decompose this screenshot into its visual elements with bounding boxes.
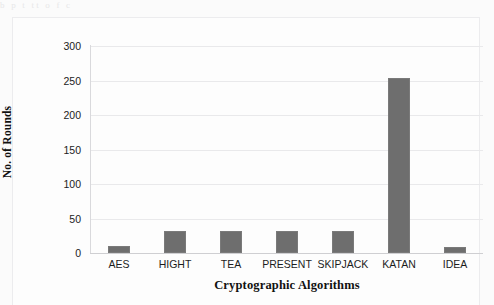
chart-frame: No. of Rounds 050100150200250300 AESHIGH…: [12, 17, 480, 305]
x-axis-line: [90, 253, 483, 254]
x-tick-label: KATAN: [382, 258, 415, 270]
bar: [164, 231, 186, 253]
y-tick-label: 300: [29, 40, 81, 52]
x-tick-label: TEA: [221, 258, 241, 270]
y-tick-label: 150: [29, 144, 81, 156]
x-tick-label: IDEA: [443, 258, 468, 270]
scan-bleed-artifact: b p t tt o f c: [0, 0, 494, 13]
x-axis-title: Cryptographic Algorithms: [91, 278, 483, 293]
y-tick-label: 250: [29, 75, 81, 87]
y-tick-label: 100: [29, 178, 81, 190]
plot-area: [91, 46, 483, 253]
x-tick-label: AES: [108, 258, 129, 270]
bar: [276, 231, 298, 253]
bar: [108, 246, 130, 253]
y-tick-label: 50: [29, 213, 81, 225]
x-tick-label: SKIPJACK: [318, 258, 369, 270]
y-axis-title: No. of Rounds: [1, 106, 13, 179]
bar: [444, 247, 466, 253]
x-tick-label: PRESENT: [262, 258, 312, 270]
bar: [388, 78, 410, 253]
bar: [220, 231, 242, 253]
bar: [332, 231, 354, 253]
x-tick-label: HIGHT: [159, 258, 192, 270]
y-tick-label: 0: [29, 247, 81, 259]
y-tick-label: 200: [29, 109, 81, 121]
